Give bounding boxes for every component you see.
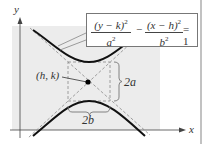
x-axis-label: x [189,123,194,135]
conjugate-axis-label: 2b [82,113,94,128]
center-point [85,79,90,84]
term2-numerator: (x − h) [147,19,178,31]
equation-box: (y − k)2 a2 − (x − h)2 b2 = 1 [86,13,198,47]
term1-numerator: (y − k) [94,19,124,31]
x-axis-arrow-icon [179,128,186,133]
equals-one: = 1 [183,23,197,47]
y-axis-label: y [14,3,19,15]
center-label: (h, k) [36,69,59,81]
term1-fraction: (y − k)2 a2 [91,16,131,49]
term2-fraction: (x − h)2 b2 [145,16,183,49]
y-axis-arrow-icon [18,17,23,24]
transverse-axis-label: 2a [124,75,136,90]
minus-operator: − [136,23,142,35]
